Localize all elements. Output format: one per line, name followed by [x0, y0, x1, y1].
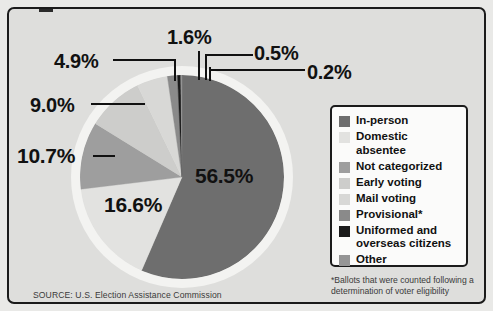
legend-swatch-icon	[339, 210, 350, 221]
pie-label-other: 0.2%	[307, 61, 351, 84]
legend-item[interactable]: Early voting	[339, 176, 460, 190]
leader-line-provisional	[198, 51, 200, 80]
legend-item-label: Early voting	[356, 176, 422, 190]
pie-label-domestic-absentee: 16.6%	[104, 193, 162, 217]
footnote-text: *Ballots that were counted following a d…	[331, 275, 483, 297]
pie-label-uniformed-overseas: 0.5%	[254, 42, 298, 65]
pie-svg	[80, 75, 284, 279]
legend-item-label: Mail voting	[356, 192, 416, 206]
legend-swatch-icon	[339, 132, 350, 143]
legend: In-personDomestic absenteeNot categorize…	[330, 105, 468, 267]
legend-item[interactable]: Not categorized	[339, 160, 460, 174]
legend-item[interactable]: Uniformed and overseas citizens	[339, 224, 460, 251]
cropped-text-fragment	[39, 9, 53, 12]
legend-item-label: Other	[356, 253, 387, 267]
legend-item-label: Provisional*	[356, 208, 422, 222]
legend-item[interactable]: Other	[339, 253, 460, 267]
pie-chart	[71, 66, 293, 288]
legend-swatch-icon	[339, 116, 350, 127]
leader-line-mail-voting-vertical	[174, 59, 176, 81]
legend-swatch-icon	[339, 162, 350, 173]
leader-line-uniformed-overseas-vertical	[205, 54, 207, 80]
pie-label-not-categorized: 10.7%	[17, 144, 75, 168]
legend-swatch-icon	[339, 194, 350, 205]
legend-item[interactable]: In-person	[339, 114, 460, 128]
pie-slices	[80, 75, 284, 279]
legend-item-label: Domestic absentee	[356, 130, 460, 157]
legend-swatch-icon	[339, 255, 350, 266]
legend-item[interactable]: Provisional*	[339, 208, 460, 222]
legend-item[interactable]: Mail voting	[339, 192, 460, 206]
leader-line-mail-voting	[113, 59, 176, 61]
leader-line-not-categorized	[93, 155, 115, 157]
pie-label-early-voting: 9.0%	[30, 94, 74, 117]
leader-line-other	[209, 69, 305, 71]
leader-line-early-voting	[91, 103, 145, 105]
legend-item-label: In-person	[356, 114, 408, 128]
chart-card: 56.5% 16.6% 10.7% 9.0% 4.9% 1.6% 0.5% 0.…	[7, 7, 486, 304]
leader-line-other-vertical	[209, 67, 211, 81]
legend-item-label: Not categorized	[356, 160, 442, 174]
pie-label-provisional: 1.6%	[167, 26, 211, 49]
source-text: SOURCE: U.S. Election Assistance Commiss…	[33, 290, 222, 300]
pie-label-in-person: 56.5%	[195, 164, 253, 188]
legend-swatch-icon	[339, 226, 350, 237]
legend-item[interactable]: Domestic absentee	[339, 130, 460, 157]
legend-item-label: Uniformed and overseas citizens	[356, 224, 451, 251]
pie-label-mail-voting: 4.9%	[54, 50, 98, 73]
leader-line-uniformed-overseas	[205, 54, 253, 56]
legend-swatch-icon	[339, 178, 350, 189]
